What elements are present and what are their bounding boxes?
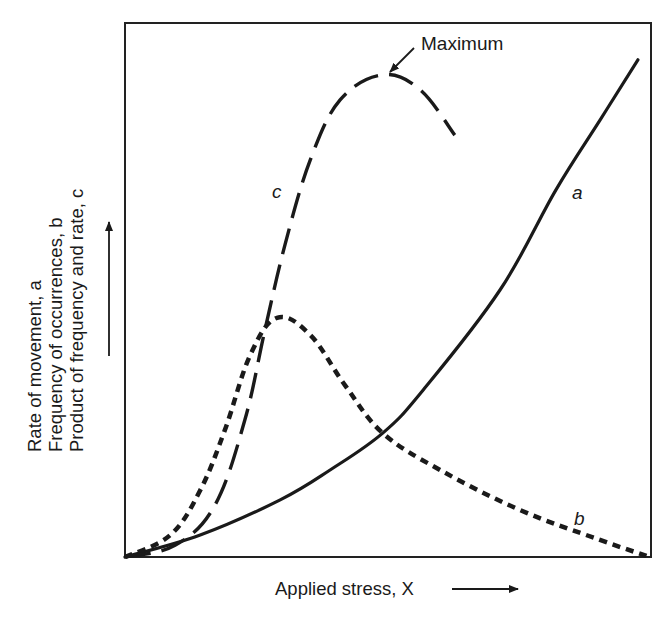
plot-frame — [125, 23, 651, 557]
curve-b-label: b — [574, 508, 585, 529]
y-axis-label: Rate of movement, a Frequency of occurre… — [24, 189, 87, 452]
y-axis-label-line2: Frequency of occurrences, b — [45, 218, 66, 452]
maximum-label: Maximum — [421, 33, 503, 54]
curve-c-label: c — [272, 181, 282, 202]
chart: a b c Maximum Rate of movement, a Freque… — [0, 0, 672, 620]
curve-c-product — [125, 74, 455, 557]
maximum-arrow-icon — [390, 48, 414, 72]
curve-a-label: a — [572, 182, 583, 203]
y-axis-label-line3: Product of frequency and rate, c — [66, 189, 87, 452]
x-axis-label: Applied stress, X — [275, 578, 414, 599]
y-axis-label-line1: Rate of movement, a — [24, 280, 45, 452]
